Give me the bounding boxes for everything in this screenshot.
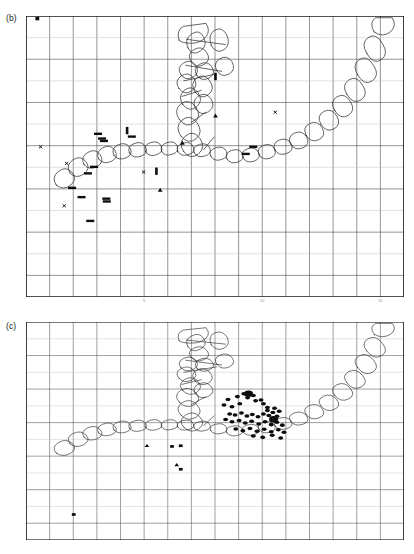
plot-area-c (26, 322, 404, 540)
data-point-circle (243, 421, 248, 425)
grid-c (26, 322, 404, 540)
plot-svg-c (26, 322, 404, 540)
data-point-x (63, 204, 66, 207)
data-point-hbar (128, 135, 136, 137)
data-point-circle (256, 422, 261, 426)
data-point-circle (250, 413, 255, 417)
data-point-square (35, 17, 39, 20)
data-point-circle (276, 428, 281, 432)
data-point-circle (253, 399, 258, 403)
data-point-circle (233, 427, 238, 431)
data-point-circle (280, 423, 285, 427)
data-point-circle (263, 420, 268, 424)
data-point-circle (227, 412, 232, 416)
data-point-circle (260, 436, 265, 440)
data-point-circle (262, 428, 267, 432)
outline-chain-b (54, 18, 394, 188)
data-point-circle-large (269, 416, 278, 422)
data-point-circle (265, 406, 270, 410)
data-point-circle (251, 434, 256, 438)
panel-b: (b) (0, 0, 414, 312)
data-point-vbar (214, 73, 217, 80)
grid-b (26, 16, 404, 297)
outline-chain-c (54, 323, 394, 455)
data-point-circle (240, 429, 245, 433)
x-axis-ticks-b: 51015 (26, 299, 404, 308)
data-point-hbar (242, 153, 250, 155)
data-point-circle (278, 436, 283, 440)
data-point-square (179, 468, 183, 471)
data-point-circle (277, 409, 282, 413)
panel-label-b: (b) (6, 14, 17, 23)
data-point-x (142, 171, 145, 174)
data-point-circle (269, 430, 274, 434)
x-tick-label: 10 (260, 299, 264, 303)
data-point-triangle (145, 444, 150, 447)
data-point-circle (282, 431, 287, 435)
data-point-circle (272, 407, 277, 411)
panel-label-c: (c) (6, 322, 16, 331)
figure: (b) (0, 0, 414, 554)
data-point-circle (237, 419, 242, 423)
data-point-square (72, 513, 76, 516)
data-point-circle (235, 395, 240, 399)
data-point-circle (266, 414, 271, 418)
x-tick-label: 15 (378, 299, 382, 303)
data-point-vbar (126, 127, 129, 134)
data-point-triangle (174, 463, 179, 466)
data-point-square (179, 444, 183, 447)
data-point-circle (230, 405, 235, 409)
data-point-circle (265, 409, 270, 413)
data-point-circle (259, 398, 264, 402)
data-point-triangle (213, 113, 218, 117)
data-point-circle (247, 427, 252, 431)
plot-area-b (26, 16, 404, 297)
data-point-vbar (155, 168, 158, 175)
markers-b (35, 17, 276, 222)
data-point-hbar (102, 197, 110, 199)
data-point-circle (239, 411, 244, 415)
data-point-hbar (84, 172, 92, 174)
data-point-circle (269, 423, 274, 427)
data-point-circle (261, 402, 266, 406)
data-point-circle (226, 398, 231, 402)
data-point-x (274, 111, 277, 114)
data-point-circle (249, 420, 254, 424)
data-point-circle (223, 418, 228, 422)
x-tick-label: 5 (143, 299, 145, 303)
markers-c (72, 391, 287, 516)
data-point-hbar (100, 140, 108, 142)
data-point-circle (270, 433, 275, 437)
data-point-circle-large (244, 391, 253, 397)
data-point-hbar (249, 146, 257, 148)
data-point-square (170, 445, 174, 448)
data-point-circle (237, 402, 242, 406)
data-point-circle (261, 412, 266, 416)
data-point-hbar (86, 220, 94, 222)
data-point-hbar (94, 133, 102, 135)
data-point-hbar (90, 166, 98, 168)
data-point-circle (230, 420, 235, 424)
data-point-circle (256, 415, 261, 419)
data-point-hbar (103, 200, 111, 202)
data-point-x (65, 162, 68, 165)
plot-svg-b (26, 16, 404, 297)
data-point-circle (233, 413, 238, 417)
data-point-circle (244, 414, 249, 418)
data-point-circle (270, 411, 275, 415)
data-point-hbar (98, 137, 106, 139)
data-point-circle (255, 430, 260, 434)
data-point-circle (221, 403, 226, 407)
data-point-hbar (78, 196, 86, 198)
data-point-triangle (158, 188, 163, 192)
panel-c: (c) (0, 312, 414, 554)
data-point-hbar (68, 187, 76, 189)
